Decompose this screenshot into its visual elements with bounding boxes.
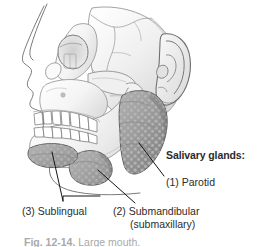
label-parotid: (1) Parotid	[166, 176, 215, 188]
figure-caption-number: Fig. 12-14.	[24, 236, 75, 247]
ear	[156, 34, 190, 105]
figure-panel: Salivary glands: (1) Parotid (3) Subling…	[0, 0, 257, 247]
label-submandibular: (2) Submandibular	[113, 205, 199, 217]
leader-line-submandibular	[98, 170, 135, 203]
label-sublingual: (3) Sublingual	[22, 205, 87, 217]
salivary-glands-heading: Salivary glands:	[166, 149, 245, 161]
leader-bracket-sublingual	[63, 196, 100, 201]
figure-caption: Fig. 12-14. Large mouth.	[24, 236, 257, 247]
label-submaxillary: (submaxillary)	[130, 218, 195, 230]
figure-caption-text: Large mouth.	[78, 236, 140, 247]
